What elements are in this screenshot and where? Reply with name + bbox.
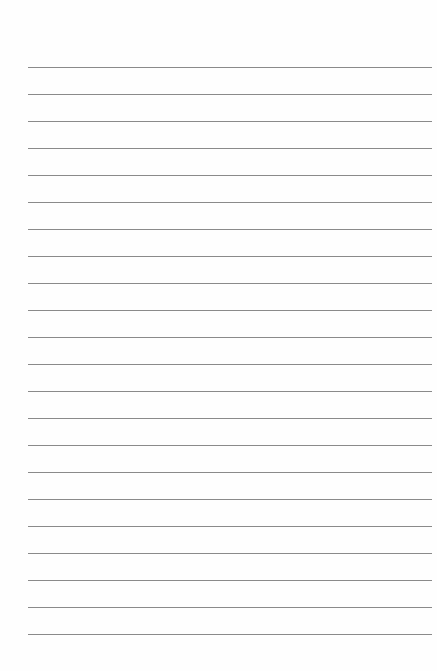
ruled-line xyxy=(28,283,432,284)
ruled-line xyxy=(28,364,432,365)
ruled-line xyxy=(28,445,432,446)
ruled-line xyxy=(28,121,432,122)
ruled-line xyxy=(28,337,432,338)
ruled-line xyxy=(28,634,432,635)
ruled-line xyxy=(28,472,432,473)
ruled-line xyxy=(28,580,432,581)
ruled-line xyxy=(28,148,432,149)
ruled-line xyxy=(28,229,432,230)
ruled-line xyxy=(28,391,432,392)
ruled-line xyxy=(28,607,432,608)
ruled-line xyxy=(28,202,432,203)
ruled-line xyxy=(28,94,432,95)
ruled-line xyxy=(28,67,432,68)
ruled-line xyxy=(28,553,432,554)
lined-paper xyxy=(0,0,437,671)
ruled-line xyxy=(28,310,432,311)
ruled-line xyxy=(28,256,432,257)
ruled-line xyxy=(28,499,432,500)
ruled-line xyxy=(28,418,432,419)
ruled-line xyxy=(28,526,432,527)
ruled-line xyxy=(28,175,432,176)
